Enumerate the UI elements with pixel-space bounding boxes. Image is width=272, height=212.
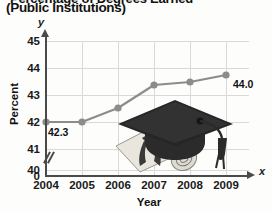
x-tick-2005: 2005 (62, 179, 102, 191)
x-axis-line (45, 175, 248, 177)
chart-figure: Percentage of Degrees Earned (Public Ins… (0, 0, 272, 212)
data-point-2008 (186, 78, 193, 85)
data-point-2006 (114, 104, 121, 111)
series-polyline (46, 75, 226, 122)
x-axis-arrow-icon (247, 171, 255, 179)
x-tick-2008: 2008 (170, 179, 210, 191)
data-label-2004: 42.3 (48, 126, 68, 138)
x-tick-2006: 2006 (98, 179, 138, 191)
x-tick-2004: 2004 (26, 179, 66, 191)
data-point-2007 (150, 81, 157, 88)
y-tick-41: 41 (1, 144, 45, 155)
x-axis-variable-label: x (259, 165, 265, 177)
data-point-2005 (78, 118, 85, 125)
y-tick-45: 45 (1, 36, 45, 47)
x-tick-2007: 2007 (134, 179, 174, 191)
y-axis-title: Percent (8, 69, 20, 139)
x-tick-2009: 2009 (206, 179, 246, 191)
data-label-2009: 44.0 (233, 78, 253, 90)
data-point-2009 (222, 71, 229, 78)
y-axis-break-icon (43, 150, 55, 166)
x-axis-title: Year (99, 196, 199, 208)
